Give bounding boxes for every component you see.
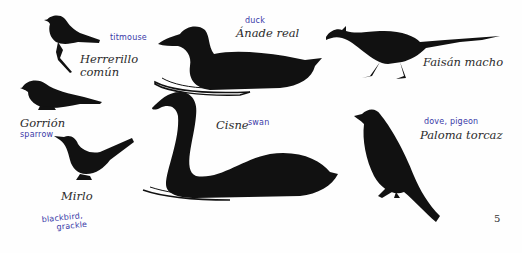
label-cisne: Cisne bbox=[216, 119, 249, 132]
handwritten-pigeon: dove, pigeon bbox=[424, 117, 478, 126]
page-number: 5 bbox=[494, 213, 500, 224]
blackbird-silhouette-icon bbox=[54, 136, 134, 180]
handwritten-duck: duck bbox=[245, 16, 265, 25]
label-herrerillo-line2: común bbox=[80, 66, 138, 79]
pigeon-silhouette-icon bbox=[354, 110, 440, 223]
label-anade: Ánade real bbox=[236, 27, 299, 40]
label-herrerillo: Herrerillo común bbox=[80, 53, 138, 79]
label-mirlo: Mirlo bbox=[61, 190, 93, 203]
label-faisan: Faisán macho bbox=[423, 56, 503, 69]
pheasant-silhouette-icon bbox=[326, 26, 500, 79]
handwritten-swan: swan bbox=[248, 118, 269, 127]
label-gorrion: Gorrión bbox=[20, 117, 65, 130]
worksheet-page: Herrerillo común titmouse Ánade real duc… bbox=[0, 0, 522, 253]
swan-silhouette-icon bbox=[143, 92, 338, 200]
sparrow-silhouette-icon bbox=[20, 81, 102, 110]
label-paloma: Paloma torcaz bbox=[420, 129, 503, 142]
handwritten-sparrow: sparrow bbox=[20, 130, 53, 139]
handwritten-titmouse: titmouse bbox=[110, 33, 147, 42]
